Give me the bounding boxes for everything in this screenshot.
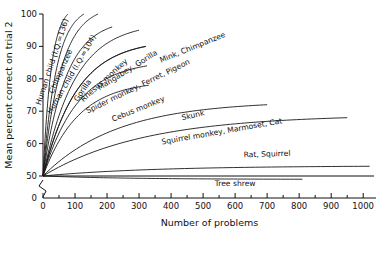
curve-label: Squirrel monkey, Marmoset, Cat: [161, 116, 283, 146]
learning-set-chart: Human child (I.Q.=136)ChimpanzeeHuman ch…: [0, 0, 385, 265]
y-tick-label: 50: [26, 171, 37, 181]
curve-label-group: Human child (I.Q.=136)ChimpanzeeHuman ch…: [34, 18, 291, 188]
x-tick-label: 800: [291, 201, 307, 211]
x-tick-label: 900: [323, 201, 339, 211]
curve-label: Tree shrew: [214, 179, 256, 188]
y-zero-label: 0: [32, 193, 37, 203]
y-tick-label: 60: [26, 139, 37, 149]
chart-container: Human child (I.Q.=136)ChimpanzeeHuman ch…: [0, 0, 385, 265]
y-tick-label: 80: [26, 74, 37, 84]
x-tick-label: 200: [99, 201, 115, 211]
x-tick-label: 700: [259, 201, 275, 211]
x-axis-ticks: [43, 193, 363, 198]
curve-label: Rat, Squirrel: [243, 149, 290, 160]
curve-line: [43, 105, 267, 176]
curve-label: Mink, Chimpanzee: [158, 30, 227, 65]
y-tick-label: 90: [26, 41, 37, 51]
y-tick-label: 70: [26, 106, 37, 116]
x-tick-label: 1000: [352, 201, 374, 211]
x-tick-label: 0: [40, 201, 45, 211]
y-tick-label: 100: [21, 9, 37, 19]
x-tick-label: 400: [163, 201, 179, 211]
curve-line: [43, 118, 347, 176]
x-tick-label: 100: [67, 201, 83, 211]
curve-label: Skunk: [181, 108, 206, 122]
x-tick-label: 500: [195, 201, 211, 211]
x-tick-label: 600: [227, 201, 243, 211]
y-axis-title: Mean percent correct on trial 2: [3, 21, 14, 168]
x-tick-label: 300: [131, 201, 147, 211]
x-axis-title: Number of problems: [161, 217, 259, 228]
curve-line: [43, 166, 370, 176]
